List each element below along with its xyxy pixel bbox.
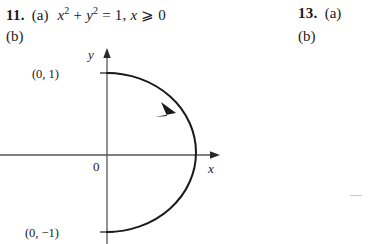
- part-label-13b: (b): [298, 28, 316, 44]
- equation-11a-constraint-value: 0: [158, 7, 166, 23]
- equation-11a-plus: +: [74, 7, 83, 23]
- part-label-13a: (a): [325, 6, 342, 21]
- equation-11a-rhs: 1,: [115, 7, 127, 23]
- stray-print-mark: [350, 195, 362, 196]
- question-number-13: 13.: [298, 6, 318, 21]
- part-label-11a: (a): [32, 8, 49, 23]
- question-number-11: 11.: [6, 8, 25, 23]
- semicircle-curve: [107, 73, 196, 232]
- point-label-zero-negative-one: (0, −1): [25, 226, 59, 240]
- x-axis-label: x: [207, 161, 214, 176]
- curve-direction-arrow: [155, 102, 176, 117]
- equation-11a-y-exponent: 2: [93, 5, 98, 16]
- equation-11a-y: y: [86, 7, 93, 23]
- answer-entry-13a: 13.(a): [298, 6, 341, 21]
- graph-11b: y x 0 (0, 1) (0, −1): [0, 40, 240, 244]
- y-axis-arrowhead: [103, 48, 110, 58]
- equation-11a-constraint-relation: ⩾: [141, 7, 154, 23]
- answer-entry-13b: (b): [298, 29, 316, 44]
- point-label-zero-one: (0, 1): [32, 67, 59, 81]
- equation-11a-constraint-var: x: [130, 7, 137, 23]
- origin-label: 0: [93, 159, 100, 174]
- x-axis-arrowhead: [210, 151, 220, 158]
- y-axis-label: y: [86, 47, 94, 62]
- equation-11a-x-exponent: 2: [64, 5, 69, 16]
- equation-11a: x2 + y2 = 1, x ⩾ 0: [57, 6, 166, 23]
- answer-entry-11a: 11.(a)x2 + y2 = 1, x ⩾ 0: [6, 6, 166, 23]
- equation-11a-equals: =: [102, 7, 111, 23]
- answer-key-page: 11.(a)x2 + y2 = 1, x ⩾ 0 (b) 13.(a) (b): [0, 0, 372, 244]
